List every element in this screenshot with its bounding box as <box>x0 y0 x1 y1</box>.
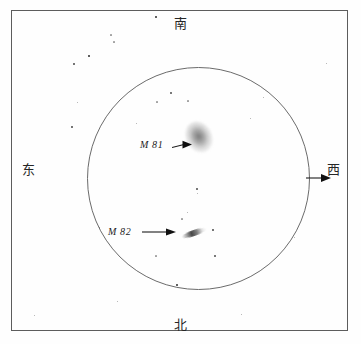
direction-label-north: 北 <box>0 318 361 331</box>
chart-frame: M 81 M 82 <box>11 10 348 331</box>
star <box>88 55 90 57</box>
star <box>73 63 74 64</box>
star <box>136 123 137 124</box>
star <box>181 218 182 219</box>
star <box>77 102 78 103</box>
star <box>294 237 295 238</box>
star <box>99 227 100 228</box>
direction-label-east: 东 <box>22 163 35 176</box>
m81-pointer-icon <box>172 139 194 151</box>
star <box>170 92 172 94</box>
star <box>156 101 157 102</box>
star <box>71 126 72 127</box>
star <box>241 314 242 315</box>
star <box>197 193 198 194</box>
star <box>34 315 35 316</box>
label-m81: M 81 <box>140 139 163 150</box>
star <box>155 255 156 256</box>
direction-label-west: 西 <box>327 163 340 176</box>
star <box>187 212 188 213</box>
label-m82: M 82 <box>108 226 131 237</box>
star <box>187 100 188 101</box>
star-chart: M 81 M 82 南 北 东 西 <box>0 0 361 344</box>
star <box>214 255 216 257</box>
finder-field-circle <box>87 67 310 290</box>
star <box>250 118 251 119</box>
star <box>263 97 264 98</box>
direction-label-south: 南 <box>0 17 361 30</box>
star <box>117 301 118 302</box>
star <box>326 63 327 64</box>
star <box>196 188 198 190</box>
star <box>110 34 111 35</box>
star <box>212 229 213 230</box>
star <box>113 41 114 42</box>
m82-pointer-icon <box>142 226 178 238</box>
star <box>176 284 178 286</box>
